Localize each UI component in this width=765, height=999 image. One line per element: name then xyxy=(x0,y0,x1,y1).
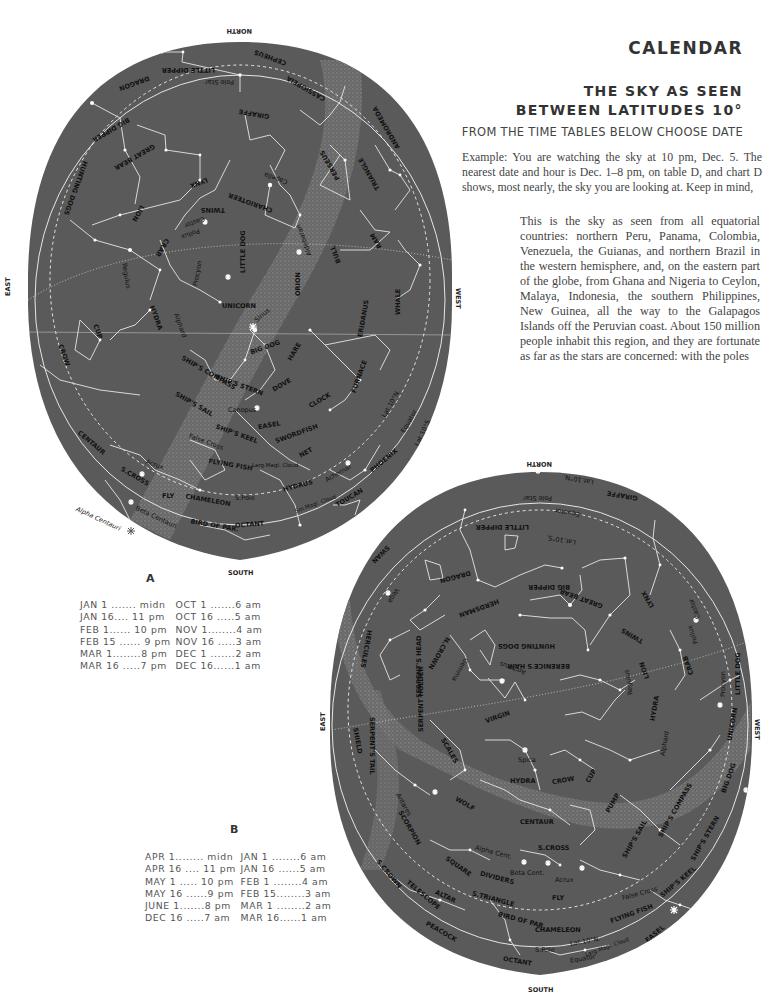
svg-text:Canopus: Canopus xyxy=(228,406,257,414)
svg-text:HUNTING DOGS: HUNTING DOGS xyxy=(498,642,555,650)
timetable-a-left-column: JAN 1 ....... midn JAN 16.... 11 pm FEB … xyxy=(80,599,172,673)
table-row: MAR 1........8 pm xyxy=(80,648,172,660)
table-row: MAR 16......1 am xyxy=(241,912,332,924)
star-chart-b: Pole Star GIRAFFE Lat.10°N. Equator LITT… xyxy=(320,450,765,999)
table-row: NOV 1........4 am xyxy=(176,624,263,636)
svg-text:SERPENT HOLDER: SERPENT HOLDER xyxy=(417,667,425,732)
alpha-centauri-marker-a xyxy=(127,527,135,535)
table-row: MAY 1 ..... 10 pm xyxy=(145,876,237,888)
table-row: FEB 15 ...... 9 pm xyxy=(80,636,172,648)
table-row: MAR 16 .....7 pm xyxy=(80,660,172,672)
label-little-dipper: LITTLE DIPPER xyxy=(162,66,215,74)
svg-text:ORION: ORION xyxy=(294,272,302,296)
svg-text:CENTAUR: CENTAUR xyxy=(520,818,554,826)
table-row: MAR 1 ........2 am xyxy=(241,900,332,912)
timetable-a-right-column: OCT 1 .......6 am OCT 16 .....5 am NOV 1… xyxy=(176,599,263,673)
table-row: DEC 16 .....7 am xyxy=(145,912,237,924)
table-row: JUNE 1.......8 pm xyxy=(145,900,237,912)
svg-text:LITTLE DOG: LITTLE DOG xyxy=(239,230,247,273)
svg-text:TWINS: TWINS xyxy=(201,206,225,214)
svg-text:FLY: FLY xyxy=(552,894,565,902)
table-row: FEB 1...... 10 pm xyxy=(80,624,172,636)
svg-text:BERENICE'S HAIR: BERENICE'S HAIR xyxy=(507,662,570,670)
table-row: DEC 16......1 am xyxy=(176,660,263,672)
instruction-heading: FROM THE TIME TABLES BELOW CHOOSE DATE xyxy=(462,125,743,139)
svg-text:LITTLE DOG: LITTLE DOG xyxy=(734,652,742,695)
svg-text:S.CROSS: S.CROSS xyxy=(538,844,570,852)
svg-text:LITTLE DIPPER: LITTLE DIPPER xyxy=(476,523,529,531)
svg-text:WHALE: WHALE xyxy=(394,289,402,315)
label-alpha-centauri-a: Alpha Centauri xyxy=(74,505,122,533)
svg-text:S.Pole: S.Pole xyxy=(235,494,255,502)
page-title: CALENDAR xyxy=(628,38,743,58)
svg-text:Spica: Spica xyxy=(518,756,536,764)
subtitle-line-2: BETWEEN LATITUDES 10° xyxy=(516,101,743,120)
table-a-label: A xyxy=(146,572,155,585)
table-b-label: B xyxy=(230,823,238,836)
svg-text:CHAMELEON: CHAMELEON xyxy=(535,926,581,934)
svg-text:UNICORN: UNICORN xyxy=(222,302,256,310)
timetable-b: APR 1........ midn APR 16 .... 11 pm MAY… xyxy=(145,851,331,925)
svg-text:Procyon: Procyon xyxy=(719,671,727,697)
section-subtitle: THE SKY AS SEEN BETWEEN LATITUDES 10° xyxy=(516,82,743,120)
body-paragraph: This is the sky as seen from all equator… xyxy=(520,214,760,364)
table-row: FEB 1 ........4 am xyxy=(241,876,332,888)
compass-north-a: NORTH xyxy=(226,27,252,35)
svg-text:Larg.Magl. Cloud: Larg.Magl. Cloud xyxy=(252,462,298,469)
table-row: OCT 16 .....5 am xyxy=(176,611,263,623)
table-row: FEB 15........3 am xyxy=(241,888,332,900)
svg-text:Sirius: Sirius xyxy=(751,776,765,796)
svg-text:HYDRA: HYDRA xyxy=(510,777,536,785)
subtitle-line-1: THE SKY AS SEEN xyxy=(516,82,743,101)
compass-south-b: SOUTH xyxy=(528,986,553,994)
table-row: JAN 16.... 11 pm xyxy=(80,611,172,623)
svg-text:S.Pole: S.Pole xyxy=(535,946,555,954)
compass-east-a: EAST xyxy=(4,277,12,296)
table-row: APR 1........ midn xyxy=(145,851,237,863)
svg-text:Pole Star: Pole Star xyxy=(523,494,552,502)
compass-south-a: SOUTH xyxy=(228,569,253,575)
compass-north-b: NORTH xyxy=(526,460,552,468)
table-row: OCT 1 .......6 am xyxy=(176,599,263,611)
svg-text:Lat.10°S.: Lat.10°S. xyxy=(577,970,608,983)
table-row: DEC 1 .......2 am xyxy=(176,648,263,660)
table-row: NOV 16 .....3 am xyxy=(176,636,263,648)
example-paragraph: Example: You are watching the sky at 10 … xyxy=(462,150,762,195)
svg-text:Pole Star: Pole Star xyxy=(205,78,234,86)
table-row: APR 16 .... 11 pm xyxy=(145,863,237,875)
table-row: JAN 1 ........6 am xyxy=(241,851,332,863)
svg-text:Canopus: Canopus xyxy=(684,910,711,935)
compass-west-a: WEST xyxy=(454,288,462,309)
compass-east-b: EAST xyxy=(320,712,327,731)
table-row: MAY 16 ......9 pm xyxy=(145,888,237,900)
compass-west-b: WEST xyxy=(753,719,761,740)
table-row: JAN 16 ......5 am xyxy=(241,863,332,875)
svg-text:Acrux: Acrux xyxy=(555,876,574,884)
timetable-b-left-column: APR 1........ midn APR 16 .... 11 pm MAY… xyxy=(145,851,237,925)
svg-text:SERPENT'S TAIL: SERPENT'S TAIL xyxy=(368,717,376,775)
svg-text:Beta Cent.: Beta Cent. xyxy=(510,869,544,877)
timetable-b-right-column: JAN 1 ........6 am JAN 16 ......5 am FEB… xyxy=(241,851,332,925)
timetable-a: JAN 1 ....... midn JAN 16.... 11 pm FEB … xyxy=(80,599,262,673)
svg-text:FLY: FLY xyxy=(162,492,175,500)
table-row: JAN 1 ....... midn xyxy=(80,599,172,611)
